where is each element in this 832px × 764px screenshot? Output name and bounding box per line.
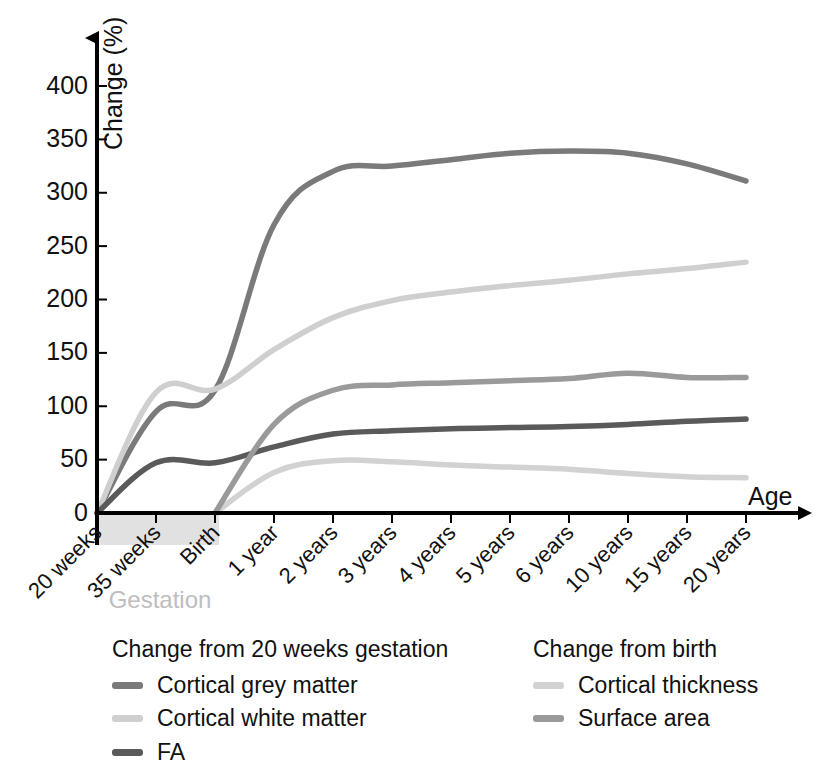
x-axis-title: Age — [748, 482, 792, 510]
legend-item-label: Surface area — [578, 705, 710, 731]
gestation-band-label: Gestation — [109, 586, 212, 613]
legend-item-label: FA — [157, 739, 185, 764]
legend-swatch-icon — [533, 715, 564, 722]
x-tick-label: 3 years — [333, 520, 402, 589]
y-tick-label: 300 — [46, 177, 88, 205]
legend-item-label: Cortical thickness — [578, 672, 758, 698]
y-tick-label: 50 — [60, 444, 88, 472]
legend-item-cortical-thickness[interactable]: Cortical thickness — [533, 672, 758, 698]
legend-change-from-birth: Change from birth Cortical thickness Sur… — [533, 636, 758, 739]
legend-item-label: Cortical white matter — [157, 705, 367, 731]
y-tick-label: 0 — [74, 498, 88, 526]
series-line-cortical-thickness — [215, 460, 746, 513]
legend-item-cortical-white-matter[interactable]: Cortical white matter — [112, 705, 448, 731]
legend-swatch-icon — [533, 682, 564, 689]
y-tick-label: 400 — [46, 71, 88, 99]
legend-item-surface-area[interactable]: Surface area — [533, 705, 758, 731]
y-tick-label: 150 — [46, 337, 88, 365]
legend-swatch-icon — [112, 749, 143, 756]
y-tick-label: 100 — [46, 391, 88, 419]
x-tick-label: 5 years — [451, 520, 520, 589]
series-line-cortical-grey-matter — [97, 151, 746, 513]
legend-swatch-icon — [112, 715, 143, 722]
legend-right-title: Change from birth — [533, 636, 758, 663]
y-axis-title: Change (%) — [99, 17, 127, 150]
y-tick-label: 350 — [46, 124, 88, 152]
x-tick-label: 2 years — [274, 520, 343, 589]
legend-item-fa[interactable]: FA — [112, 739, 448, 764]
y-tick-label: 200 — [46, 284, 88, 312]
series-layer — [97, 151, 746, 513]
legend-swatch-icon — [112, 682, 143, 689]
x-tick-label: 4 years — [392, 520, 461, 589]
legend-change-from-gestation: Change from 20 weeks gestation Cortical … — [112, 636, 448, 764]
legend-left-title: Change from 20 weeks gestation — [112, 636, 448, 663]
y-tick-label: 250 — [46, 231, 88, 259]
legend-item-label: Cortical grey matter — [157, 672, 358, 698]
legend-item-cortical-grey-matter[interactable]: Cortical grey matter — [112, 672, 448, 698]
